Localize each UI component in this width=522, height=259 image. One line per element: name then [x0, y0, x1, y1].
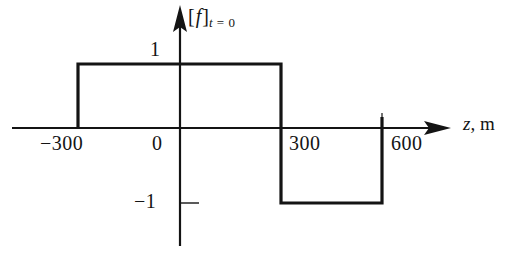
y-axis-title: [f]t = 0 — [188, 6, 235, 29]
square-wave-trace — [78, 64, 382, 203]
y-axis-title-subscript: t = 0 — [209, 15, 235, 30]
square-wave-figure: [f]t = 0 1 −1 −300 0 300 600 z, m — [0, 0, 522, 259]
x-tick-label-300: 300 — [289, 133, 321, 153]
y-axis-title-subscript-equals: = — [213, 15, 228, 30]
y-axis-title-bracket-close: ] — [202, 5, 209, 27]
plot-canvas — [0, 0, 522, 259]
y-tick-label-one: 1 — [150, 39, 161, 59]
y-axis-title-bracket-open: [ — [188, 5, 195, 27]
x-axis-label: z, m — [463, 114, 495, 133]
x-tick-label-600: 600 — [391, 133, 423, 153]
x-axis-label-separator: , — [470, 113, 480, 134]
y-tick-label-minus-one: −1 — [134, 191, 156, 211]
x-axis-label-unit: m — [480, 113, 495, 134]
y-axis-title-subscript-value: 0 — [228, 15, 235, 30]
x-tick-label-zero: 0 — [152, 133, 163, 153]
x-tick-label-minus-300: −300 — [40, 133, 83, 153]
